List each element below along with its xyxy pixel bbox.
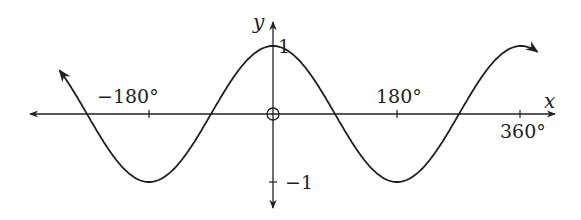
x-axis-label: x xyxy=(544,89,555,113)
tick-label-180: 180° xyxy=(376,85,422,107)
y-axis-label: y xyxy=(252,10,265,34)
tick-label-y1: 1 xyxy=(278,35,290,57)
tick-label-360: 360° xyxy=(500,120,546,142)
tick-label-yneg1: −1 xyxy=(285,171,313,193)
cosine-graph: −180° 180° 360° 1 −1 x y xyxy=(0,0,581,220)
y-axis xyxy=(269,22,277,208)
x-axis xyxy=(30,110,555,118)
tick-label-neg180: −180° xyxy=(97,85,159,107)
